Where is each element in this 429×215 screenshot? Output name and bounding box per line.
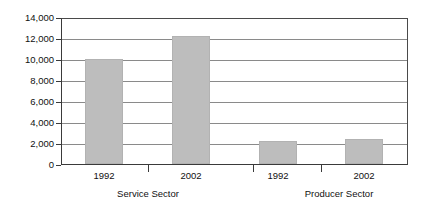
bar-service-1992 [85, 59, 123, 164]
x-axis-label-service-1992: 1992 [74, 170, 134, 181]
x-axis-label-service-2002: 2002 [161, 170, 221, 181]
x-axis-label-producer-2002: 2002 [334, 170, 394, 181]
gridline-12000 [62, 39, 407, 40]
bar-service-2002 [172, 36, 210, 164]
bar-producer-2002 [345, 139, 383, 164]
group-label-producer-sector: Producer Sector [286, 188, 392, 199]
x-axis-label-producer-1992: 1992 [248, 170, 308, 181]
x-axis-tick-mark [321, 165, 322, 172]
bar-producer-1992 [259, 141, 297, 164]
y-axis-tick-label: 8,000 [0, 76, 54, 86]
group-label-service-sector: Service Sector [100, 188, 196, 199]
y-axis-tick-mark [56, 165, 61, 166]
y-axis-tick-label: 4,000 [0, 118, 54, 128]
x-axis-tick-mark [148, 165, 149, 172]
y-axis-tick-label: 10,000 [0, 55, 54, 65]
plot-area [61, 18, 408, 165]
y-axis-tick-label: 14,000 [0, 13, 54, 23]
y-axis-tick-label: 12,000 [0, 34, 54, 44]
y-axis-tick-label: 0 [0, 160, 54, 170]
bar-chart: 14,000 12,000 10,000 8,000 6,000 4,000 2… [0, 0, 429, 215]
y-axis-tick-label: 2,000 [0, 139, 54, 149]
y-axis-tick-label: 6,000 [0, 97, 54, 107]
